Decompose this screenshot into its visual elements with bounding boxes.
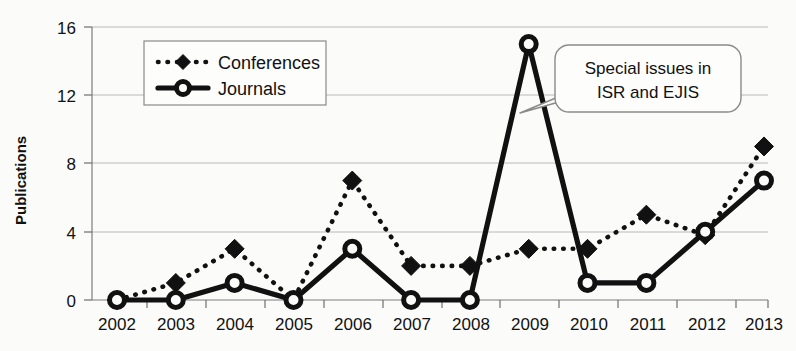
publications-line-chart: Publications 16 12 8 4 0: [0, 0, 796, 351]
data-point-journals[interactable]: [227, 275, 242, 290]
chart-canvas: Publications 16 12 8 4 0: [0, 0, 796, 351]
x-tick-label-2006: 2006: [334, 315, 372, 334]
x-tick-label-2007: 2007: [393, 315, 431, 334]
data-point-journals[interactable]: [404, 293, 419, 308]
data-point-journals[interactable]: [110, 293, 125, 308]
y-axis-title-text: Publications: [12, 136, 29, 225]
callout-line-2: ISR and EJIS: [597, 83, 699, 102]
data-point-journals[interactable]: [521, 37, 536, 52]
data-point-journals[interactable]: [639, 275, 654, 290]
data-point-journals[interactable]: [168, 293, 183, 308]
x-tick-label-2008: 2008: [452, 315, 490, 334]
y-axis-title: Publications: [12, 136, 29, 225]
data-point-journals[interactable]: [580, 275, 595, 290]
legend-label-journals: Journals: [218, 79, 286, 99]
y-tick-label-8: 8: [67, 155, 76, 174]
y-tick-label-12: 12: [57, 87, 76, 106]
legend-label-conferences: Conferences: [218, 53, 320, 73]
x-tick-label-2005: 2005: [275, 315, 313, 334]
data-point-journals[interactable]: [286, 293, 301, 308]
callout-line-1: Special issues in: [585, 59, 712, 78]
x-tick-label-2013: 2013: [745, 315, 783, 334]
data-point-journals[interactable]: [462, 293, 477, 308]
x-tick-label-2009: 2009: [511, 315, 549, 334]
circle-open-icon: [177, 82, 190, 95]
data-point-journals[interactable]: [757, 173, 772, 188]
data-point-journals[interactable]: [698, 224, 713, 239]
x-tick-label-2004: 2004: [216, 315, 254, 334]
legend[interactable]: Conferences Journals: [144, 41, 326, 105]
y-tick-label-0: 0: [67, 292, 76, 311]
x-tick-label-2010: 2010: [570, 315, 608, 334]
x-tick-label-2002: 2002: [98, 315, 136, 334]
x-tick-label-2003: 2003: [157, 315, 195, 334]
y-tick-label-4: 4: [67, 224, 76, 243]
x-tick-label-2011: 2011: [630, 315, 667, 334]
data-point-journals[interactable]: [345, 241, 360, 256]
y-tick-label-16: 16: [57, 19, 76, 38]
x-tick-label-2012: 2012: [688, 315, 726, 334]
